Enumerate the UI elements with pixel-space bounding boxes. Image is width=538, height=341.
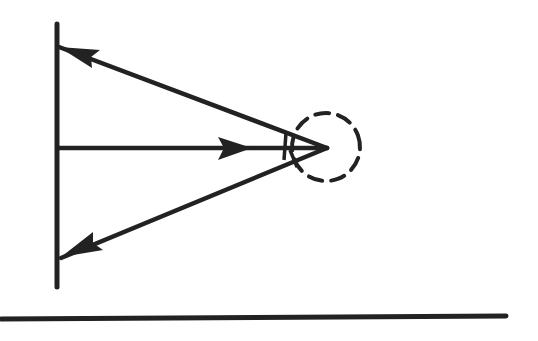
point-tick-upper	[284, 133, 286, 160]
upper-ray-arrowhead-icon	[59, 47, 100, 68]
diagram-canvas	[0, 0, 538, 341]
lower-ray	[61, 148, 327, 258]
upper-ray	[59, 47, 327, 148]
ground-line	[1, 316, 506, 319]
